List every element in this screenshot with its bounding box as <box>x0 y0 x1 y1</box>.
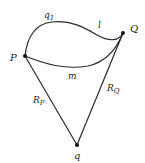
label-l: l <box>98 20 101 30</box>
label-p: P <box>9 52 17 63</box>
label-q1-sub: 1 <box>50 14 54 22</box>
label-m: m <box>68 71 77 81</box>
point-q-upper <box>121 31 125 35</box>
label-rq: RQ <box>106 83 120 95</box>
label-rp-sub: P <box>39 99 45 107</box>
label-rp: RP <box>32 95 45 107</box>
path-diagram: P Q q q1 l m RP RQ <box>0 0 145 163</box>
label-q: q <box>74 150 80 161</box>
m-curve-edge <box>25 33 123 67</box>
label-Q: Q <box>130 23 138 34</box>
label-rq-sub: Q <box>114 87 120 95</box>
label-q1: q1 <box>44 10 54 22</box>
point-p <box>23 54 27 58</box>
point-q-lower <box>75 143 79 147</box>
upper-curve-edge <box>25 22 123 56</box>
